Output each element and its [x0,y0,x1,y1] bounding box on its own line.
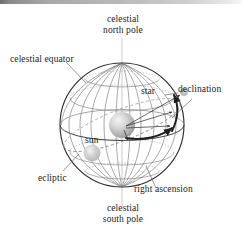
celestial-sphere-figure: celestial north pole celestial equator s… [0,0,242,236]
leader-ecliptic [63,154,79,171]
label-star: star [141,86,155,97]
north-pole-line-2: north pole [103,25,143,35]
celestial-sphere-svg [0,0,242,236]
south-pole-line-2: south pole [103,214,143,224]
south-pole-line-1: celestial [107,203,139,213]
sun-marker [84,145,101,162]
label-celestial-equator: celestial equator [10,54,74,65]
label-ecliptic: ecliptic [38,173,67,184]
label-sun: sun [85,135,99,146]
label-declination: declination [178,84,221,95]
leader-declination [172,99,192,118]
leader-celestial-equator [66,62,86,83]
earth-center-sphere [109,112,135,138]
label-celestial-north-pole: celestial north pole [78,14,168,35]
label-celestial-south-pole: celestial south pole [78,203,168,224]
north-pole-line-1: celestial [107,14,139,24]
label-right-ascension: right ascension [134,184,193,195]
